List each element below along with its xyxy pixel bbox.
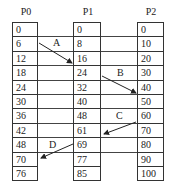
arrow-d bbox=[41, 144, 73, 158]
arrow-b bbox=[102, 76, 136, 93]
arrows-layer bbox=[0, 0, 172, 191]
arrow-label-d: D bbox=[49, 139, 56, 150]
arrow-label-a: A bbox=[53, 37, 60, 48]
arrow-label-b: B bbox=[117, 67, 124, 78]
arrow-c bbox=[104, 122, 136, 134]
arrow-label-c: C bbox=[116, 110, 123, 121]
